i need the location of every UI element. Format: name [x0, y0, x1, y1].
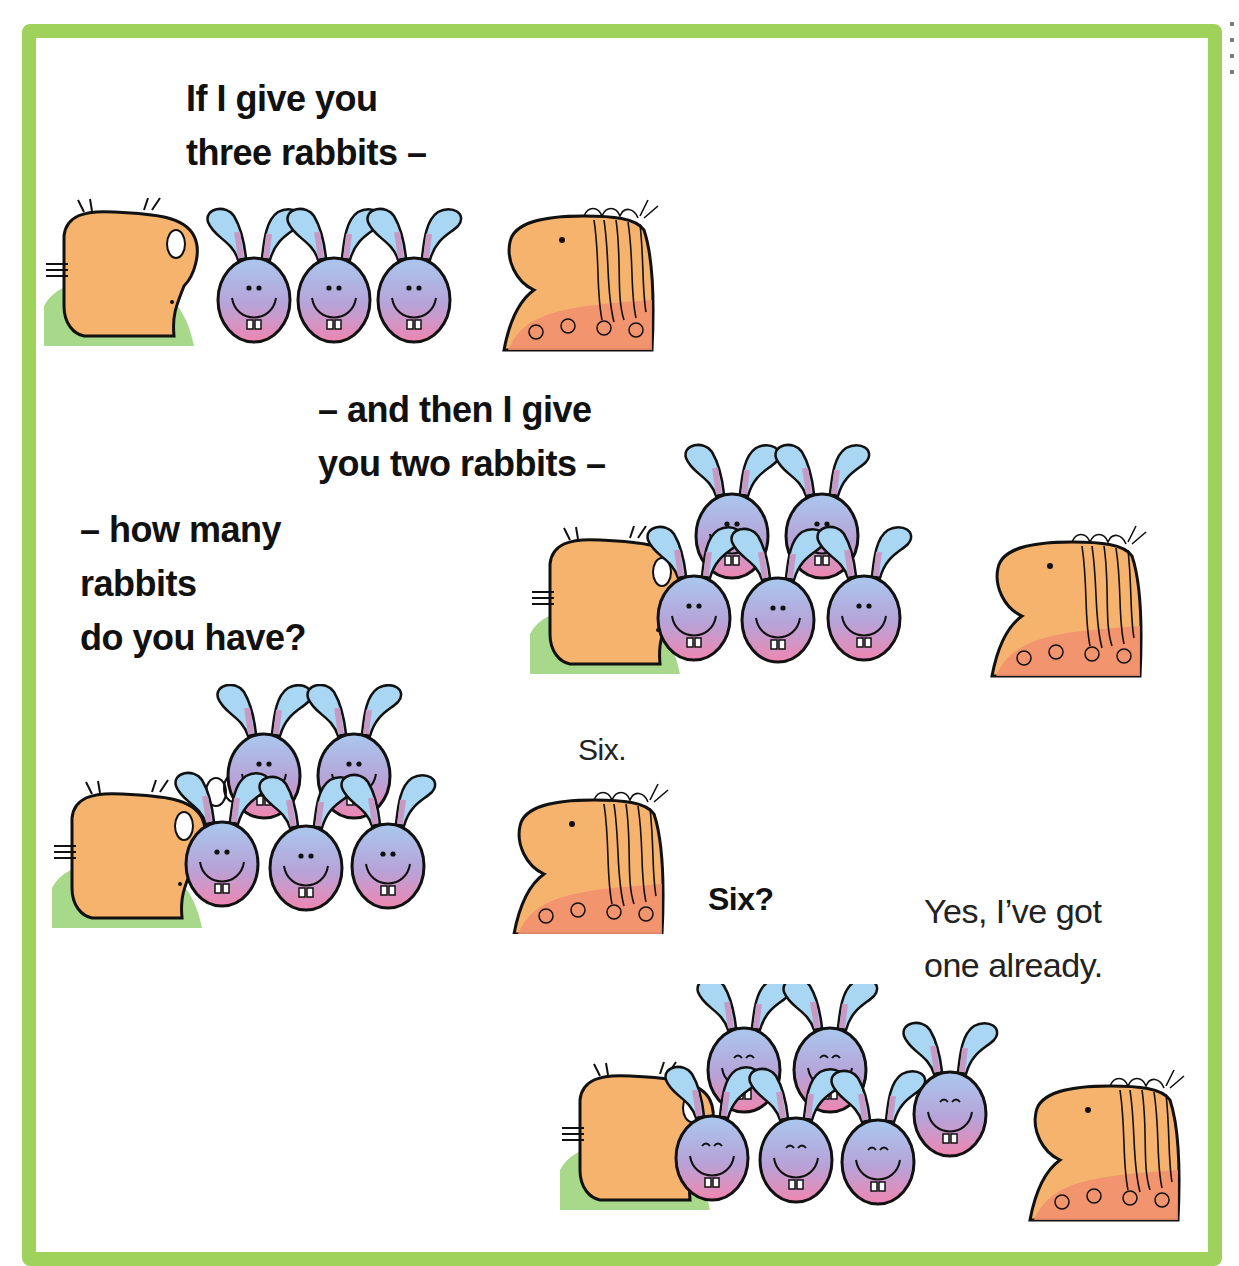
rabbit-icon — [732, 529, 826, 662]
caption-how-many: – how many rabbits do you have? — [80, 503, 306, 665]
rabbit-icon — [342, 775, 436, 908]
scene-three-rabbits — [44, 196, 664, 356]
boy-character-icon — [52, 780, 205, 928]
caption-three-rabbits: If I give you three rabbits – — [186, 72, 427, 180]
caption-reply: Yes, I’ve got one already. — [924, 884, 1103, 992]
rabbit-icon — [208, 209, 302, 342]
girl-character-icon — [992, 526, 1146, 676]
scene-five-rabbits — [530, 438, 1160, 678]
rabbit-icon — [260, 777, 354, 910]
edge-marks — [1228, 22, 1236, 122]
rabbit-icon — [818, 527, 912, 660]
rabbit-icon — [288, 209, 382, 342]
boy-character-icon — [44, 198, 197, 346]
girl-character-icon — [1030, 1070, 1184, 1220]
girl-character-icon — [514, 784, 668, 934]
girl-character-icon — [504, 200, 658, 350]
rabbit-icon — [832, 1071, 926, 1204]
rabbit-icon — [368, 209, 462, 342]
scene-one-already — [560, 984, 1190, 1224]
scene-counting-six — [44, 684, 674, 934]
caption-six-question: Six? — [708, 872, 774, 926]
